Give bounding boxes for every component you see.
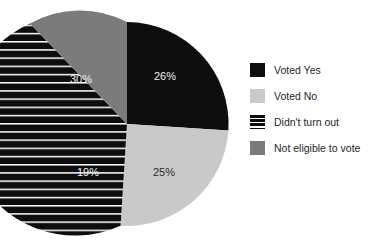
legend-item-not-eligible[interactable]: Not eligible to vote [250,140,388,155]
legend-label-didnt-turn-out: Didn't turn out [274,115,339,129]
dark-gray-solid-swatch [250,141,265,155]
legend-item-didnt-turn-out[interactable]: Didn't turn out [250,114,388,129]
light-gray-solid-swatch [250,89,265,103]
pie-label-didnt-turn-out: 19% [77,166,99,178]
legend-item-voted-no[interactable]: Voted No [250,88,388,103]
pie-chart-svg: 26% 25% 19% 30% [0,0,245,245]
chart-legend: Voted Yes Voted No Didn't turn out Not e… [250,62,388,155]
pie-label-voted-yes: 26% [154,70,176,82]
legend-label-voted-no: Voted No [274,89,317,103]
pie-chart-figure: 26% 25% 19% 30% Voted Yes Voted No Didn'… [0,0,388,245]
pie-label-voted-no: 25% [153,166,175,178]
pie-label-not-eligible: 30% [70,73,92,85]
pie-chart-plot-area: 26% 25% 19% 30% [0,0,245,245]
pie-slice-voted-yes[interactable] [127,22,229,130]
legend-item-voted-yes[interactable]: Voted Yes [250,62,388,77]
legend-label-not-eligible: Not eligible to vote [274,141,360,155]
black-solid-swatch [250,63,265,77]
legend-label-voted-yes: Voted Yes [274,63,321,77]
black-striped-swatch [250,115,265,129]
